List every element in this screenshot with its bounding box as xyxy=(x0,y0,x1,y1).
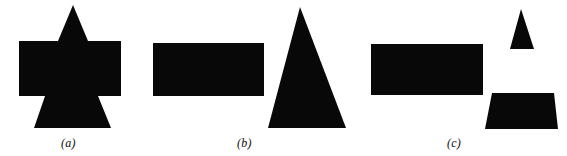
panel-c-trapezoid xyxy=(485,93,558,129)
panel-c-triangle-small xyxy=(510,9,534,49)
panel-c-caption: (c) xyxy=(447,137,461,149)
panel-c-rectangle xyxy=(371,44,483,95)
panel-c-canvas xyxy=(0,0,567,156)
figure-root: (a) (b) (c) xyxy=(0,0,567,156)
